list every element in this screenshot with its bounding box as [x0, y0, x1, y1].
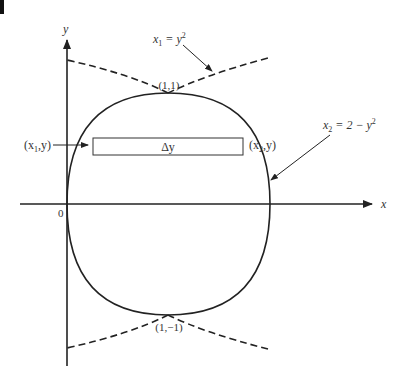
curve-x2-dashed-bottom	[67, 315, 168, 348]
x-axis-label: x	[380, 197, 387, 211]
intersection-top-label: (1,1)	[158, 79, 179, 92]
curve-x1-arrow	[183, 45, 212, 71]
curve-x2-arrow	[271, 135, 330, 180]
left-point-label: (x1,y)	[24, 138, 51, 154]
curve-x1-dashed-top	[168, 58, 268, 93]
curve-x1-dashed-bottom	[168, 315, 268, 349]
y-axis-label: y	[62, 22, 69, 36]
corner-mark	[0, 0, 4, 14]
origin-label: 0	[58, 207, 64, 219]
curve-x2-label: x2 = 2 − y2	[322, 117, 376, 134]
curve-x2-dashed-top	[67, 60, 168, 93]
region-between-parabolas-diagram: Δy (x1,y) (x2,y) x1 = y2 x2 = 2 − y2 (1,…	[0, 0, 396, 389]
right-point-label: (x2,y)	[249, 138, 276, 154]
delta-y-label: Δy	[161, 140, 175, 154]
curve-x1-label: x1 = y2	[152, 31, 186, 48]
intersection-bottom-label: (1,−1)	[155, 321, 183, 334]
